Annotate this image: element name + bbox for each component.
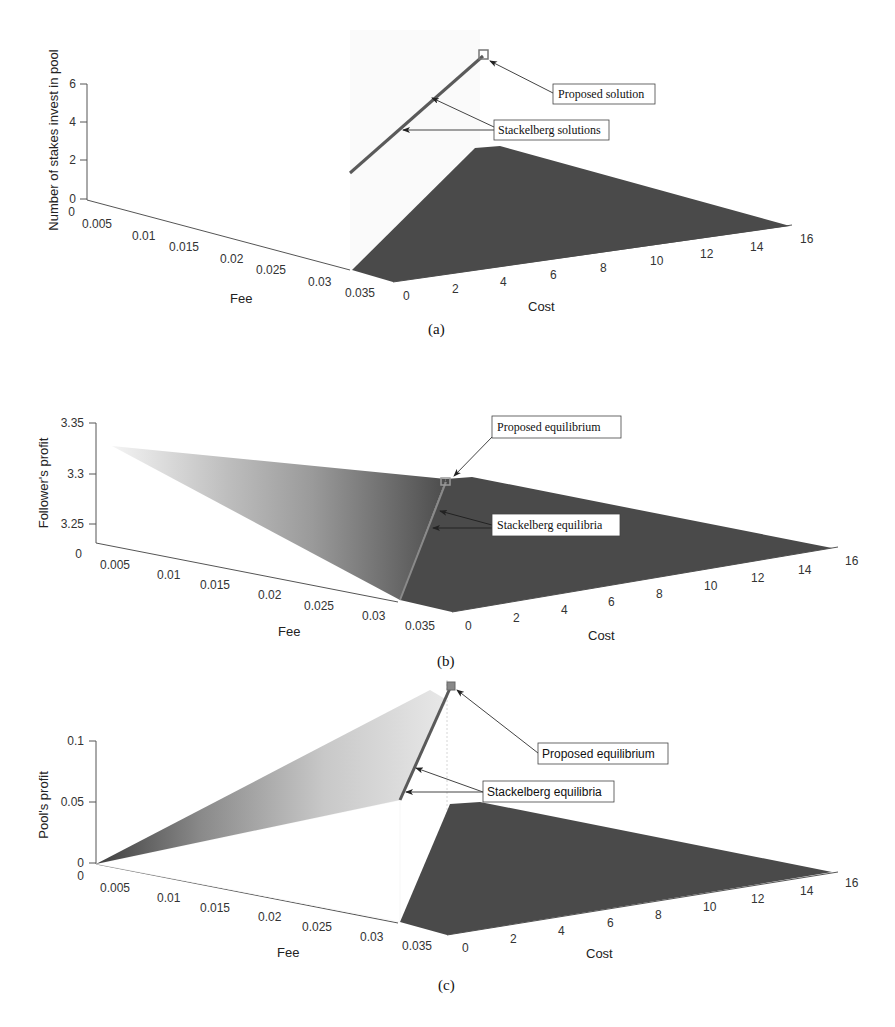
z-tick-label: 2	[69, 153, 76, 167]
svg-text:0.035: 0.035	[345, 286, 375, 300]
svg-text:16: 16	[845, 554, 859, 568]
svg-text:12: 12	[751, 571, 765, 585]
caption-b: (b)	[437, 653, 455, 670]
svg-text:3.35: 3.35	[61, 416, 85, 430]
svg-text:0.05: 0.05	[61, 795, 85, 809]
svg-text:16: 16	[845, 876, 859, 890]
svg-text:0.025: 0.025	[302, 920, 332, 934]
surface	[400, 477, 832, 612]
svg-text:12: 12	[751, 892, 765, 906]
svg-text:8: 8	[656, 587, 663, 601]
annotation-proposed-text: Proposed equilibrium	[542, 747, 655, 761]
cost-axis-label: Cost	[586, 946, 613, 961]
z-tick-label: 0	[69, 192, 76, 206]
annotation-stackelberg-text: Stackelberg equilibria	[487, 785, 602, 799]
svg-text:6: 6	[550, 268, 557, 282]
svg-text:16: 16	[800, 232, 814, 246]
svg-text:0: 0	[403, 289, 410, 303]
svg-text:12: 12	[700, 247, 714, 261]
fee-ticks: 0 0.005 0.01 0.015 0.02 0.025 0.03 0.035	[68, 205, 375, 300]
svg-text:0: 0	[75, 547, 82, 561]
svg-text:2: 2	[513, 611, 520, 625]
svg-text:0.025: 0.025	[256, 263, 286, 277]
svg-text:0.01: 0.01	[132, 229, 156, 243]
svg-text:4: 4	[500, 275, 507, 289]
surface	[400, 802, 832, 935]
annotation-proposed-text: Proposed equilibrium	[497, 420, 601, 434]
caption-c: (c)	[438, 977, 455, 994]
panel-a: 6 4 2 0 Number of stakes invest in pool …	[46, 30, 814, 338]
svg-text:4: 4	[558, 924, 565, 938]
z-axis-label: Number of stakes invest in pool	[46, 49, 61, 230]
panel-b: 3.35 3.3 3.25 0 Follower's profit 0.005 …	[36, 416, 859, 670]
annotation-stackelberg-text: Stackelberg equilibria	[497, 518, 603, 532]
svg-text:6: 6	[608, 595, 615, 609]
svg-text:10: 10	[703, 900, 717, 914]
svg-text:3.3: 3.3	[67, 467, 84, 481]
svg-text:14: 14	[750, 240, 764, 254]
cost-axis-label: Cost	[588, 628, 615, 643]
svg-text:14: 14	[798, 563, 812, 577]
svg-text:0.035: 0.035	[405, 619, 435, 633]
z-ticks: 0.1 0.05 0 0	[61, 734, 96, 883]
fee-axis-label: Fee	[278, 624, 300, 639]
z-ticks: 3.35 3.3 3.25 0	[61, 416, 96, 561]
svg-text:8: 8	[600, 261, 607, 275]
svg-text:0: 0	[462, 941, 469, 955]
svg-text:0.025: 0.025	[304, 599, 334, 613]
fee-axis-label: Fee	[277, 945, 299, 960]
svg-text:0.005: 0.005	[100, 881, 130, 895]
z-axis-label: Pool's profit	[36, 771, 51, 839]
svg-text:0.03: 0.03	[360, 930, 384, 944]
svg-text:3.25: 3.25	[61, 517, 85, 531]
svg-text:0.01: 0.01	[157, 568, 181, 582]
svg-text:0.02: 0.02	[220, 252, 244, 266]
svg-text:0.01: 0.01	[157, 891, 181, 905]
caption-a: (a)	[428, 321, 445, 338]
svg-text:4: 4	[561, 603, 568, 617]
svg-text:10: 10	[704, 579, 718, 593]
svg-text:0.02: 0.02	[258, 588, 282, 602]
svg-text:6: 6	[607, 916, 614, 930]
cost-axis-label: Cost	[528, 299, 555, 314]
z-axis-label: Follower's profit	[36, 437, 51, 528]
svg-text:14: 14	[800, 884, 814, 898]
svg-text:2: 2	[510, 932, 517, 946]
proposed-marker	[447, 682, 455, 690]
z-ticks: 6 4 2 0	[69, 77, 87, 206]
fee-axis-label: Fee	[230, 291, 252, 306]
svg-text:0: 0	[68, 205, 75, 219]
svg-text:2: 2	[452, 282, 459, 296]
svg-text:0.02: 0.02	[258, 910, 282, 924]
panel-c: 0.1 0.05 0 0 Pool's profit 0.005 0.01 0.…	[36, 680, 859, 994]
svg-text:0.015: 0.015	[200, 578, 230, 592]
svg-text:8: 8	[655, 908, 662, 922]
svg-text:0: 0	[77, 869, 84, 883]
fee-axis	[87, 200, 350, 270]
svg-text:0.035: 0.035	[402, 939, 432, 953]
svg-text:0.1: 0.1	[67, 734, 84, 748]
svg-text:0.015: 0.015	[200, 901, 230, 915]
svg-text:0.015: 0.015	[169, 240, 199, 254]
figure-canvas: 6 4 2 0 Number of stakes invest in pool …	[0, 0, 895, 1027]
svg-text:0.005: 0.005	[82, 217, 112, 231]
svg-text:0: 0	[77, 856, 84, 870]
svg-text:10: 10	[650, 254, 664, 268]
svg-text:0.005: 0.005	[100, 558, 130, 572]
z-tick-label: 6	[69, 77, 76, 91]
z-tick-label: 4	[69, 115, 76, 129]
svg-text:0.03: 0.03	[362, 609, 386, 623]
svg-text:0.03: 0.03	[308, 275, 332, 289]
svg-text:0: 0	[465, 619, 472, 633]
annotation-stackelberg-text: Stackelberg solutions	[498, 123, 601, 137]
annotation-proposed-text: Proposed solution	[558, 87, 644, 101]
